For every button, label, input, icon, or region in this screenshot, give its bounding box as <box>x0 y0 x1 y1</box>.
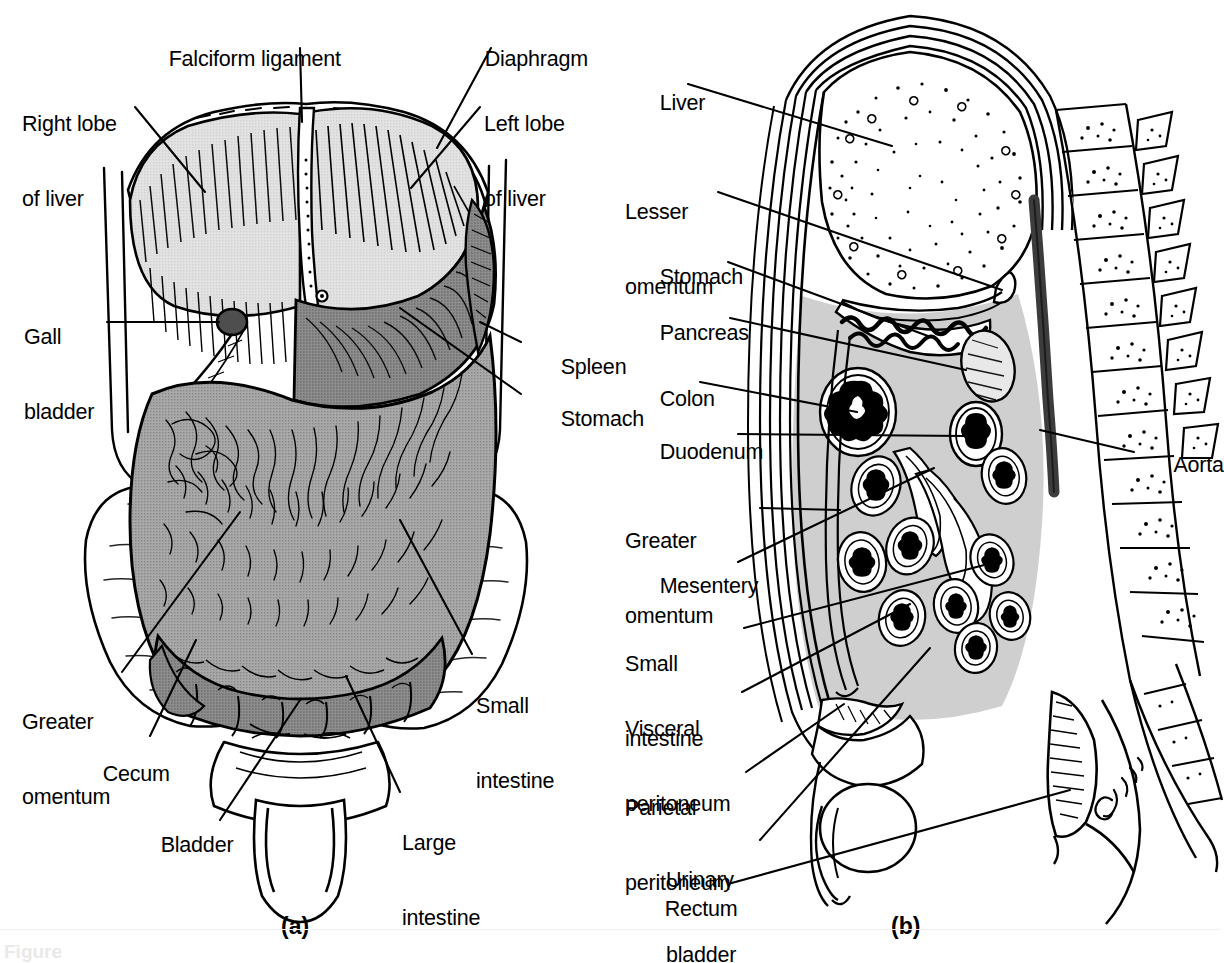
label-small-intestine: Small intestine <box>476 644 554 844</box>
label-cecum: Cecum <box>68 737 170 812</box>
panel-a-letter: (a) <box>281 913 309 940</box>
panel-b-sagittal-section: Liver Lesser omentum Stomach Pancreas Co… <box>610 0 1221 963</box>
bladder-organ <box>254 800 346 922</box>
label-bladder: Bladder <box>126 808 233 883</box>
label-falciform-ligament: Falciform ligament <box>134 22 341 97</box>
liver-organ <box>819 52 1036 299</box>
urinary-bladder-organ <box>816 784 916 900</box>
label-left-lobe-of-liver: Left lobe of liver <box>484 62 565 262</box>
panel-a-anterior-view: Falciform ligament Diaphragm Right lobe … <box>0 0 610 963</box>
label-gall-bladder: Gall bladder <box>24 275 94 475</box>
right-lobe-of-liver <box>130 113 300 365</box>
body-surface-line <box>748 106 782 722</box>
label-b-pancreas: Pancreas <box>625 296 749 371</box>
label-b-rectum: Rectum <box>630 872 738 947</box>
figure-caption-stub: Figure <box>4 941 62 963</box>
page-hairline-top <box>0 929 1221 930</box>
label-right-lobe-of-liver: Right lobe of liver <box>22 62 117 262</box>
label-b-liver: Liver <box>625 66 705 141</box>
label-b-aorta: Aorta <box>1140 428 1224 503</box>
rectum-organ <box>1048 692 1097 864</box>
label-large-intestine: Large intestine <box>402 781 480 963</box>
panel-b-letter: (b) <box>891 913 920 940</box>
